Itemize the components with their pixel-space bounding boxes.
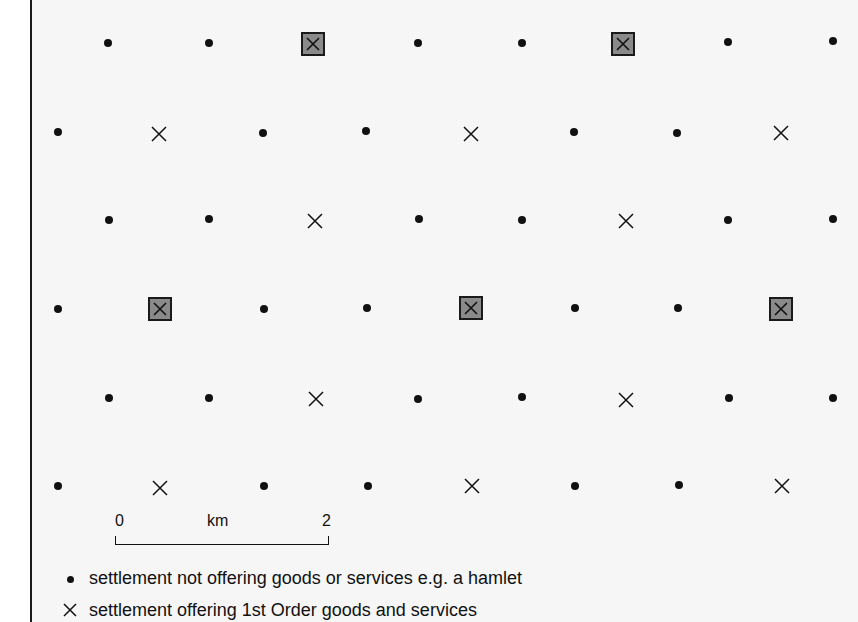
hamlet-dot-icon [675, 481, 683, 489]
hamlet-dot-icon [54, 305, 62, 313]
first-order-cross-icon [307, 213, 323, 229]
settlement-hierarchy-diagram: 0 km 2 settlement not offering goods or … [0, 0, 858, 622]
hamlet-dot-icon [105, 216, 113, 224]
higher-order-boxed-cross-icon [769, 297, 793, 321]
first-order-cross-icon [464, 478, 480, 494]
higher-order-boxed-cross-icon [459, 296, 483, 320]
hamlet-dot-icon [571, 304, 579, 312]
first-order-cross-icon [618, 213, 634, 229]
hamlet-dot-icon [260, 305, 268, 313]
higher-order-boxed-cross-icon [611, 32, 635, 56]
scale-start-label: 0 [115, 512, 124, 530]
hamlet-dot-icon [570, 128, 578, 136]
frame-border-line [30, 0, 32, 622]
left-margin [0, 0, 31, 622]
hamlet-dot-icon [829, 215, 837, 223]
hamlet-dot-icon [571, 482, 579, 490]
scale-bar: 0 km 2 [115, 512, 330, 548]
higher-order-boxed-cross-icon [148, 297, 172, 321]
hamlet-dot-icon [205, 215, 213, 223]
hamlet-dot-icon [104, 39, 112, 47]
legend-label: settlement not offering goods or service… [89, 568, 522, 588]
hamlet-dot-icon [829, 394, 837, 402]
scale-bar-line [115, 536, 329, 545]
hamlet-dot-icon [362, 127, 370, 135]
hamlet-dot-icon [724, 216, 732, 224]
hamlet-dot-icon [363, 304, 371, 312]
hamlet-dot-icon [673, 129, 681, 137]
hamlet-dot-icon [518, 39, 526, 47]
hamlet-dot-icon [259, 129, 267, 137]
hamlet-dot-icon [260, 482, 268, 490]
hamlet-dot-icon [518, 393, 526, 401]
legend-item-first-order: settlement offering 1st Order goods and … [62, 599, 477, 621]
legend-item-hamlet: settlement not offering goods or service… [62, 567, 522, 588]
hamlet-dot-icon [725, 394, 733, 402]
first-order-cross-icon [774, 478, 790, 494]
scale-unit-label: km [207, 512, 228, 530]
first-order-cross-icon [773, 125, 789, 141]
legend-label: settlement offering 1st Order goods and … [89, 600, 477, 620]
first-order-cross-icon [463, 126, 479, 142]
hamlet-dot-icon [105, 394, 113, 402]
hamlet-dot-icon [364, 482, 372, 490]
hamlet-dot-icon [54, 128, 62, 136]
hamlet-dot-icon [54, 482, 62, 490]
first-order-cross-icon [308, 391, 324, 407]
hamlet-dot-icon [205, 39, 213, 47]
hamlet-dot-icon [415, 215, 423, 223]
first-order-cross-icon [151, 126, 167, 142]
hamlet-dot-icon [674, 304, 682, 312]
higher-order-boxed-cross-icon [301, 32, 325, 56]
hamlet-dot-icon [414, 395, 422, 403]
scale-end-label: 2 [322, 512, 331, 530]
hamlet-dot-icon [414, 39, 422, 47]
first-order-cross-icon [152, 480, 168, 496]
dot-icon [67, 576, 74, 583]
hamlet-dot-icon [829, 37, 837, 45]
hamlet-dot-icon [518, 216, 526, 224]
cross-icon [63, 601, 77, 621]
hamlet-dot-icon [724, 38, 732, 46]
hamlet-dot-icon [205, 394, 213, 402]
first-order-cross-icon [618, 392, 634, 408]
